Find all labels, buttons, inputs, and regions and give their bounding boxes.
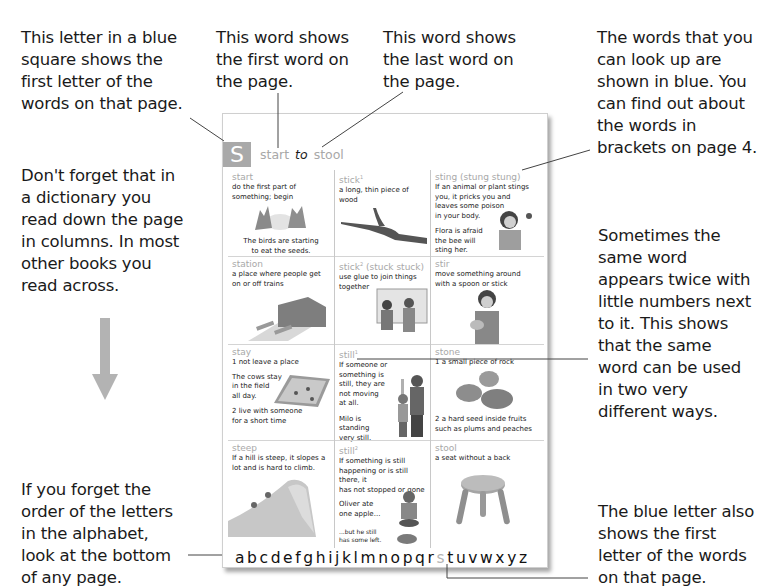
- homograph-number: 2: [360, 261, 363, 267]
- def-line: 1 a small piece of rock: [435, 358, 540, 368]
- word-forms: (stung stung): [460, 172, 521, 182]
- headword: stick2 (stuck stuck): [339, 259, 426, 273]
- callout-first-word: This word shows the first word on the pa…: [216, 27, 349, 93]
- entry-steep: steep If a hill is steep, it slopes a lo…: [228, 440, 334, 548]
- example: The birds are starting to eat the seeds.: [228, 237, 334, 256]
- headword: station: [232, 259, 330, 270]
- alphabet-after: tuvwxyz: [447, 549, 529, 567]
- def-line: happening or is still there, it: [339, 467, 426, 486]
- column-3: sting (stung stung) If an animal or plan…: [430, 170, 544, 548]
- guide-first-word: start: [260, 147, 289, 162]
- def-line: do the first part of: [232, 183, 330, 193]
- field-illustration: [272, 373, 332, 409]
- callout-blue-letter: The blue letter also shows the first let…: [598, 501, 754, 587]
- callout-line: This word shows: [216, 27, 349, 49]
- definition: move something around with a spoon or st…: [435, 270, 540, 289]
- headword: stool: [435, 443, 540, 454]
- callout-line: square shows the: [21, 49, 183, 71]
- definition-2: 2 a hard seed inside fruits such as plum…: [435, 415, 540, 434]
- callout-line: Don't forget that in: [21, 165, 183, 187]
- callout-line: The blue letter also: [598, 501, 754, 523]
- stick-illustration: [339, 206, 429, 246]
- def-line: a long, thin piece of wood: [339, 186, 426, 205]
- def-line: move something around: [435, 270, 540, 280]
- entry-stick-1: stick1 a long, thin piece of wood: [335, 170, 430, 256]
- letter-box: S: [223, 142, 251, 167]
- arrow-down-icon: [90, 318, 120, 400]
- entry-stir: stir move something around with a spoon …: [431, 256, 544, 344]
- callout-line: that the same: [598, 335, 751, 357]
- callout-line: This letter in a blue: [21, 27, 183, 49]
- entry-still-2: still2 If something is still happening o…: [335, 440, 430, 548]
- alphabet-current-letter: s: [437, 549, 448, 567]
- headword: sting (stung stung): [435, 172, 540, 183]
- def-line: a seat without a back: [435, 454, 540, 464]
- callout-line: in the alphabet,: [21, 523, 173, 545]
- ex-line: The birds are starting: [228, 237, 334, 247]
- callout-line: the page.: [216, 71, 349, 93]
- def-line: If something is still: [339, 457, 426, 467]
- headword-text: still: [339, 350, 355, 360]
- guide-words: start to stool: [260, 147, 344, 162]
- stool-illustration: [453, 475, 513, 535]
- hill-illustration: [228, 477, 316, 537]
- headword: steep: [232, 443, 330, 454]
- callout-line: in two very: [598, 379, 751, 401]
- callout-line: letter of the words: [598, 545, 754, 567]
- def-line: 1 not leave a place: [232, 358, 330, 368]
- headword: stick1: [339, 172, 426, 186]
- headword-text: stick: [339, 175, 360, 185]
- entries-grid: start do the first part of something; be…: [228, 170, 544, 548]
- column-2: stick1 a long, thin piece of wood stick2…: [334, 170, 430, 548]
- callout-line: Sometimes the: [598, 225, 751, 247]
- headword: still1: [339, 347, 426, 361]
- homograph-number: 2: [355, 445, 358, 451]
- homograph-number: 1: [360, 174, 363, 180]
- headword: stir: [435, 259, 540, 270]
- def-line: you, it pricks you and: [435, 193, 540, 203]
- callout-line: appears twice with: [598, 269, 751, 291]
- headword: stone: [435, 347, 540, 358]
- callout-last-word: This word shows the last word on the pag…: [383, 27, 516, 93]
- entry-stay: stay 1 not leave a place The cows stay i…: [228, 344, 334, 440]
- callout-line: first letter of the: [21, 71, 183, 93]
- def-line: for a short time: [232, 417, 330, 427]
- def-line: such as plums and peaches: [435, 425, 540, 435]
- callout-line: same word: [598, 247, 751, 269]
- callout-line: on that page.: [598, 567, 754, 587]
- headword-text: stick: [339, 262, 360, 272]
- callout-line: read across.: [21, 275, 183, 297]
- callout-line: The words that you: [597, 27, 757, 49]
- callout-line: in columns. In most: [21, 231, 183, 253]
- callout-read-down: Don't forget that in a dictionary you re…: [21, 165, 183, 297]
- callout-blue-square: This letter in a blue square shows the f…: [21, 27, 183, 115]
- def-line: 2 a hard seed inside fruits: [435, 415, 540, 425]
- definition-2: 2 live with someone for a short time: [232, 407, 330, 426]
- entry-stone: stone 1 a small piece of rock 2 a hard s…: [431, 344, 544, 440]
- flora-illustration: [493, 210, 537, 256]
- callout-same-word: Sometimes the same word appears twice wi…: [598, 225, 751, 423]
- guide-to: to: [295, 147, 308, 162]
- callout-line: read down the page: [21, 209, 183, 231]
- callout-line: can find out about: [597, 93, 757, 115]
- station-illustration: [248, 293, 328, 343]
- callout-line: look at the bottom: [21, 545, 173, 567]
- definition: 1 a small piece of rock: [435, 358, 540, 368]
- homograph-number: 1: [355, 349, 358, 355]
- entry-start: start do the first part of something; be…: [228, 170, 334, 256]
- definition: a place where people get on or off train…: [232, 270, 330, 289]
- entry-stick-2: stick2 (stuck stuck) use glue to join th…: [335, 256, 430, 344]
- callout-line: word can be used: [598, 357, 751, 379]
- callout-line: brackets on page 4.: [597, 137, 757, 159]
- callout-line: the words in: [597, 115, 757, 137]
- word-forms: (stuck stuck): [366, 262, 424, 272]
- headword: still2: [339, 443, 426, 457]
- definition: 1 not leave a place: [232, 358, 330, 368]
- callout-line: a dictionary you: [21, 187, 183, 209]
- definition: If a hill is steep, it slopes a lot and …: [232, 454, 330, 473]
- def-line: use glue to join things: [339, 273, 426, 283]
- def-line: a place where people get: [232, 270, 330, 280]
- definition: a long, thin piece of wood: [339, 186, 426, 205]
- stones-illustration: [455, 369, 519, 411]
- headword: stay: [232, 347, 330, 358]
